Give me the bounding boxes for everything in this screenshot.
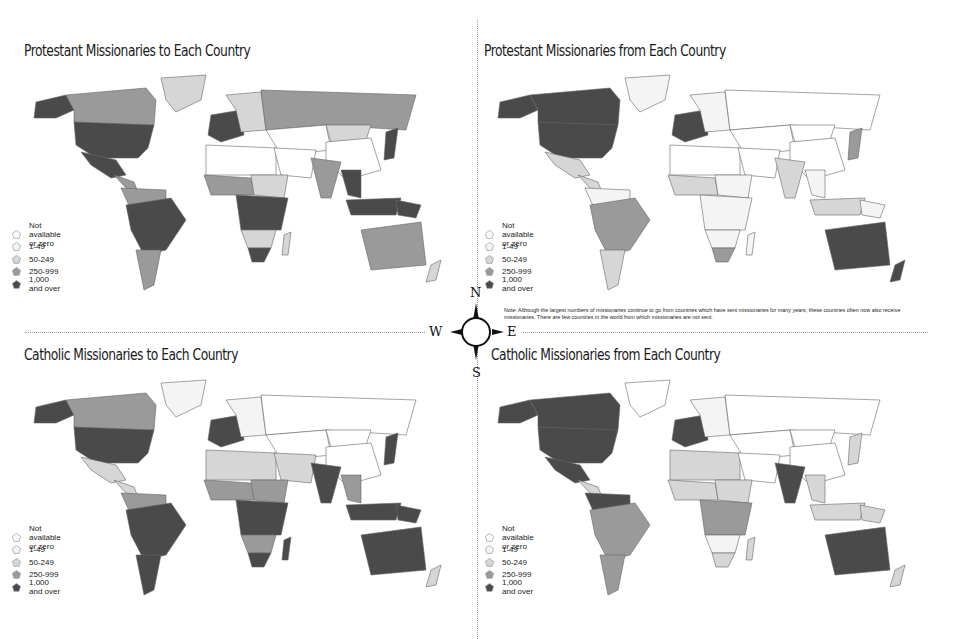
region-russia	[725, 395, 880, 435]
region-brazil-andes	[126, 198, 186, 255]
region-middle-east	[274, 453, 316, 483]
region-central-africa	[236, 195, 288, 230]
pentagon-swatch-icon	[485, 280, 494, 289]
compass-north: N	[470, 285, 481, 300]
region-australia	[361, 527, 426, 575]
region-argentina	[600, 250, 625, 290]
region-argentina	[600, 555, 625, 595]
legend-label: 50-249	[29, 558, 54, 567]
region-west-africa	[668, 175, 718, 195]
world-map	[26, 375, 456, 600]
region-madagascar	[746, 232, 755, 255]
pentagon-swatch-icon	[12, 230, 21, 239]
region-southern-africa	[705, 535, 740, 553]
world-map	[490, 375, 920, 600]
region-sahel	[251, 175, 288, 198]
legend-label: 50-249	[29, 255, 54, 264]
region-middle-east	[274, 148, 316, 178]
compass-south: S	[472, 365, 481, 380]
region-sahel	[715, 480, 752, 503]
legend-item: 50-249	[12, 556, 61, 569]
compass-west: W	[429, 324, 442, 339]
region-greenland	[161, 75, 206, 112]
region-north-africa	[206, 450, 276, 480]
region-se-asia	[341, 475, 361, 503]
region-south-africa	[248, 553, 271, 567]
region-japan	[384, 128, 398, 160]
region-japan	[848, 128, 862, 160]
legend: Not available or zero1-4950-249250-9991,…	[485, 228, 534, 291]
region-west-africa	[204, 480, 254, 500]
legend-item: Not available or zero	[12, 228, 61, 241]
pentagon-swatch-icon	[485, 230, 494, 239]
pentagon-swatch-icon	[12, 280, 21, 289]
region-png	[860, 505, 885, 523]
region-north-africa	[206, 145, 276, 175]
legend-item: 50-249	[485, 556, 534, 569]
region-argentina	[136, 250, 161, 290]
region-greenland	[161, 380, 206, 417]
region-middle-east	[738, 453, 780, 483]
region-central-africa	[700, 195, 752, 230]
region-usa	[74, 427, 154, 463]
region-brazil-andes	[590, 503, 650, 560]
region-indonesia	[346, 198, 401, 215]
region-nz	[426, 260, 441, 282]
region-nz	[890, 565, 905, 587]
region-nz	[426, 565, 441, 587]
region-south-africa	[248, 248, 271, 262]
region-se-asia	[805, 170, 825, 198]
pentagon-swatch-icon	[12, 570, 21, 579]
region-southern-africa	[241, 230, 276, 248]
region-png	[396, 200, 421, 218]
region-se-asia	[805, 475, 825, 503]
pentagon-swatch-icon	[485, 570, 494, 579]
region-australia	[825, 222, 890, 270]
panel-title: Protestant Missionaries from Each Countr…	[484, 42, 726, 60]
legend-label: 1-49	[502, 242, 518, 251]
legend-item: 50-249	[12, 253, 61, 266]
region-south-africa	[712, 553, 735, 567]
region-russia	[261, 395, 416, 435]
legend-item: Not available or zero	[485, 228, 534, 241]
region-sahel	[715, 175, 752, 198]
pentagon-swatch-icon	[485, 583, 494, 592]
region-indonesia	[810, 198, 865, 215]
region-japan	[384, 433, 398, 465]
legend-item: 1,000 and over	[12, 581, 61, 594]
pentagon-swatch-icon	[12, 583, 21, 592]
horizontal-divider-left	[25, 332, 425, 333]
region-russia	[725, 90, 880, 130]
pentagon-swatch-icon	[485, 533, 494, 542]
region-india	[775, 158, 805, 198]
legend-label: 1,000 and over	[502, 578, 534, 596]
region-australia	[825, 527, 890, 575]
region-north-africa	[670, 145, 740, 175]
region-sahel	[251, 480, 288, 503]
region-central-africa	[236, 500, 288, 535]
pentagon-swatch-icon	[12, 267, 21, 276]
region-greenland	[625, 380, 670, 417]
region-south-africa	[712, 248, 735, 262]
legend-label: 50-249	[502, 558, 527, 567]
legend-item: 1,000 and over	[485, 581, 534, 594]
region-central-africa	[700, 500, 752, 535]
region-brazil-andes	[126, 503, 186, 560]
legend-label: 1-49	[29, 242, 45, 251]
region-india	[775, 463, 805, 503]
world-map	[26, 70, 456, 295]
compass-rose: N S W E	[440, 290, 520, 380]
region-png	[396, 505, 421, 523]
compass-east: E	[507, 324, 517, 339]
region-nz	[890, 260, 905, 282]
region-usa	[538, 122, 618, 158]
legend-label: 1,000 and over	[29, 275, 61, 293]
legend: Not available or zero1-4950-249250-9991,…	[12, 531, 61, 594]
legend-item: 1,000 and over	[12, 278, 61, 291]
pentagon-swatch-icon	[12, 545, 21, 554]
region-greenland	[625, 75, 670, 112]
pentagon-swatch-icon	[485, 255, 494, 264]
map-note: Note: Although the largest numbers of mi…	[504, 307, 924, 321]
pentagon-swatch-icon	[485, 242, 494, 251]
legend: Not available or zero1-4950-249250-9991,…	[12, 228, 61, 291]
